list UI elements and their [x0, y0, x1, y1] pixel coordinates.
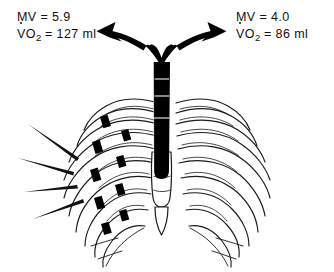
- o-letter: O: [26, 27, 36, 41]
- left-lung-measurements: MV = 5.9 VO2 = 127 ml: [17, 9, 97, 43]
- right-lung-measurements: MV = 4.0 VO2 = 86 ml: [236, 9, 308, 43]
- v-dot-notation: V: [236, 26, 245, 42]
- left-ribcage: [64, 99, 158, 267]
- right-minute-ventilation: MV = 4.0: [236, 9, 308, 26]
- figure-root: MV = 5.9 VO2 = 127 ml MV = 4.0 VO2 = 86 …: [0, 0, 334, 272]
- airflow-arrow-right: [177, 22, 227, 51]
- xiphoid-process: [155, 207, 168, 235]
- right-ribcage: [176, 99, 270, 267]
- radiating-injury-lines: [18, 124, 84, 219]
- left-vo2-value: = 127 ml: [41, 27, 96, 41]
- trachea: [154, 62, 171, 179]
- v-letter: V: [236, 27, 245, 41]
- airflow-arrow-left: [97, 22, 147, 51]
- right-oxygen-uptake: VO2 = 86 ml: [236, 26, 308, 43]
- o-letter: O: [245, 27, 255, 41]
- v-dot-notation: V: [17, 26, 26, 42]
- right-vo2-value: = 86 ml: [260, 27, 308, 41]
- carina: [146, 44, 178, 68]
- left-oxygen-uptake: VO2 = 127 ml: [17, 26, 97, 43]
- v-letter: V: [17, 27, 26, 41]
- left-minute-ventilation: MV = 5.9: [17, 9, 97, 26]
